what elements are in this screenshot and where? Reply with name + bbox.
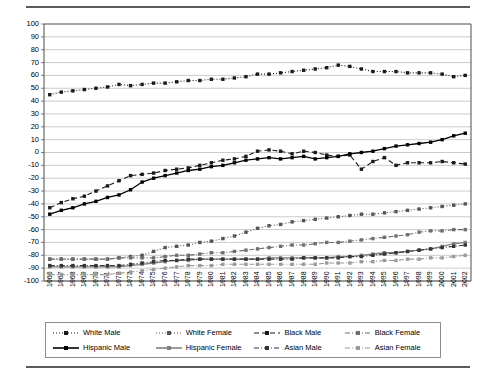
legend-marker <box>167 346 171 350</box>
series-marker <box>325 261 328 264</box>
legend-marker <box>64 331 68 335</box>
series-marker <box>429 229 432 232</box>
series-marker <box>314 218 317 221</box>
legend-item[interactable]: Asian Male <box>253 343 343 353</box>
legend-item[interactable]: Hispanic Male <box>52 343 155 353</box>
x-axis-tick-label: 1996 <box>392 271 399 287</box>
series-marker <box>360 212 363 215</box>
series-marker <box>440 138 443 141</box>
legend-item[interactable]: White Male <box>52 328 155 338</box>
series-marker <box>163 81 166 84</box>
legend-label: Black Female <box>375 328 420 337</box>
series-marker <box>429 256 432 259</box>
series-marker <box>267 257 270 260</box>
x-axis-tick-label: 1999 <box>426 271 433 287</box>
x-axis-tick-label: 1988 <box>300 271 307 287</box>
series-marker <box>106 273 109 276</box>
series-marker <box>48 264 51 267</box>
series-marker <box>417 230 420 233</box>
series-marker <box>83 202 86 205</box>
series-marker <box>210 161 213 164</box>
series-marker <box>337 155 340 158</box>
series-marker <box>60 209 63 212</box>
series-marker <box>371 160 374 163</box>
series-marker <box>71 264 74 267</box>
series-marker <box>117 264 120 267</box>
legend-swatch-icon <box>155 343 183 353</box>
legend-item[interactable]: Asian Female <box>344 343 434 353</box>
y-axis-tick-label: 20 <box>31 122 39 131</box>
legend-swatch-icon <box>344 343 372 353</box>
series-marker <box>163 266 166 269</box>
x-axis-tick-label: 1986 <box>276 271 283 287</box>
series-marker <box>371 260 374 263</box>
series-marker <box>60 273 63 276</box>
series-marker <box>71 273 74 276</box>
series-marker <box>221 263 224 266</box>
series-marker <box>244 159 247 162</box>
series-marker <box>267 156 270 159</box>
series-marker <box>198 252 201 255</box>
legend-swatch-icon <box>253 328 281 338</box>
series-marker <box>325 66 328 69</box>
series-marker <box>244 263 247 266</box>
series-marker <box>163 169 166 172</box>
series-marker <box>198 264 201 267</box>
series-marker <box>383 156 386 159</box>
series-marker <box>221 159 224 162</box>
series-marker <box>175 171 178 174</box>
legend-item[interactable]: White Female <box>155 328 254 338</box>
series-marker <box>106 257 109 260</box>
series-marker <box>244 230 247 233</box>
series-marker <box>337 63 340 66</box>
legend-marker <box>265 346 269 350</box>
series-marker <box>256 247 259 250</box>
legend-label: White Male <box>83 328 121 337</box>
series-marker <box>290 220 293 223</box>
series-marker <box>360 260 363 263</box>
series-marker <box>198 257 201 260</box>
series-marker <box>417 248 420 251</box>
x-axis-tick-label: 1989 <box>311 271 318 287</box>
series-marker <box>394 164 397 167</box>
series-marker <box>302 263 305 266</box>
y-axis-tick-label: 10 <box>31 135 39 144</box>
series-marker <box>140 261 143 264</box>
series-marker <box>314 67 317 70</box>
legend-item[interactable]: Hispanic Female <box>155 343 254 353</box>
x-axis-tick-label: 1994 <box>369 271 376 287</box>
x-axis-tick-label: 1979 <box>196 271 203 287</box>
series-marker <box>360 238 363 241</box>
legend-item[interactable]: Black Male <box>253 328 343 338</box>
series-marker <box>394 259 397 262</box>
legend-label: Black Male <box>284 328 321 337</box>
series-marker <box>279 223 282 226</box>
series-marker <box>244 257 247 260</box>
y-axis-tick-label: -60 <box>28 225 39 234</box>
series-marker <box>187 169 190 172</box>
series-marker <box>290 263 293 266</box>
series-marker <box>198 79 201 82</box>
legend-item[interactable]: Black Female <box>344 328 434 338</box>
series-marker <box>302 256 305 259</box>
series-marker <box>452 134 455 137</box>
legend-row: White Male White Female Black Male Black… <box>52 325 434 340</box>
series-marker <box>464 74 467 77</box>
x-axis-tick-label: 1975 <box>149 271 156 287</box>
series-marker <box>348 214 351 217</box>
series-marker <box>140 269 143 272</box>
series-marker <box>417 71 420 74</box>
series-marker <box>187 79 190 82</box>
x-axis-tick-label: 1992 <box>346 271 353 287</box>
series-marker <box>48 212 51 215</box>
series-marker <box>429 247 432 250</box>
series-marker <box>94 257 97 260</box>
legend-marker <box>64 346 68 350</box>
series-marker <box>302 219 305 222</box>
series-line <box>50 65 465 95</box>
series-marker <box>140 173 143 176</box>
series-marker <box>48 257 51 260</box>
series-marker <box>290 70 293 73</box>
series-marker <box>406 233 409 236</box>
series-marker <box>210 165 213 168</box>
